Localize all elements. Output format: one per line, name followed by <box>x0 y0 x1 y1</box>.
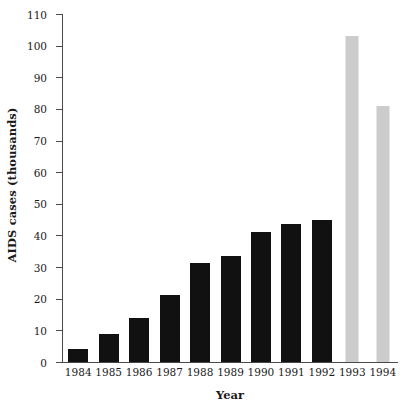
bar-1985 <box>99 334 119 362</box>
y-tick-mark <box>56 362 63 363</box>
x-tick-label: 1990 <box>244 366 278 378</box>
y-tick-mark <box>56 204 63 205</box>
y-tick-label: 70 <box>34 135 47 147</box>
y-axis-title: AIDS cases (thousands) <box>0 0 24 370</box>
x-axis-ticks: 1984198519861987198819891990199119921993… <box>63 366 398 384</box>
x-tick-label: 1992 <box>305 366 339 378</box>
y-tick: 100 <box>56 46 63 47</box>
plot-area: 0102030405060708090100110 <box>62 8 398 370</box>
y-tick: 50 <box>56 204 63 205</box>
y-tick: 40 <box>56 235 63 236</box>
y-tick-mark <box>56 267 63 268</box>
bar-1990 <box>251 232 271 362</box>
y-tick-label: 110 <box>27 9 47 21</box>
y-tick: 60 <box>56 172 63 173</box>
bar-1988 <box>190 263 210 362</box>
y-tick: 0 <box>56 362 63 363</box>
y-tick-mark <box>56 14 63 15</box>
bar-chart: AIDS cases (thousands) 01020304050607080… <box>0 0 403 411</box>
y-tick: 20 <box>56 299 63 300</box>
y-tick: 80 <box>56 109 63 110</box>
x-tick-label: 1987 <box>153 366 187 378</box>
y-tick-mark <box>56 77 63 78</box>
bar-1984 <box>68 349 88 362</box>
bar-1992 <box>312 220 332 362</box>
y-tick-mark <box>56 141 63 142</box>
y-tick: 10 <box>56 330 63 331</box>
y-tick-label: 50 <box>34 198 47 210</box>
y-tick-mark <box>56 235 63 236</box>
bar-1994 <box>376 106 389 362</box>
y-tick-mark <box>56 46 63 47</box>
y-tick-label: 100 <box>27 40 47 52</box>
y-tick-label: 0 <box>40 357 47 369</box>
y-tick-label: 30 <box>34 262 47 274</box>
x-tick-label: 1985 <box>92 366 126 378</box>
x-axis-title: Year <box>62 388 398 402</box>
y-tick-mark <box>56 172 63 173</box>
x-tick-label: 1993 <box>335 366 369 378</box>
y-tick-label: 20 <box>34 293 47 305</box>
x-tick-label: 1988 <box>183 366 217 378</box>
bar-1987 <box>160 295 180 362</box>
x-tick-label: 1986 <box>122 366 156 378</box>
x-tick-label: 1984 <box>61 366 95 378</box>
y-tick: 70 <box>56 141 63 142</box>
x-tick-label: 1994 <box>366 366 400 378</box>
bar-1986 <box>129 318 149 362</box>
y-tick-mark <box>56 330 63 331</box>
y-tick-mark <box>56 299 63 300</box>
x-tick-label: 1991 <box>274 366 308 378</box>
y-tick: 90 <box>56 77 63 78</box>
y-tick-label: 40 <box>34 230 47 242</box>
y-tick: 30 <box>56 267 63 268</box>
y-axis-title-text: AIDS cases (thousands) <box>5 108 19 263</box>
bar-series <box>63 8 398 363</box>
y-tick: 110 <box>56 14 63 15</box>
bar-1989 <box>221 256 241 362</box>
bar-1993 <box>346 36 359 362</box>
y-tick-label: 60 <box>34 167 47 179</box>
x-tick-label: 1989 <box>214 366 248 378</box>
y-tick-label: 80 <box>34 103 47 115</box>
y-tick-label: 10 <box>34 325 47 337</box>
bar-1991 <box>281 224 301 362</box>
y-tick-mark <box>56 109 63 110</box>
y-tick-label: 90 <box>34 72 47 84</box>
